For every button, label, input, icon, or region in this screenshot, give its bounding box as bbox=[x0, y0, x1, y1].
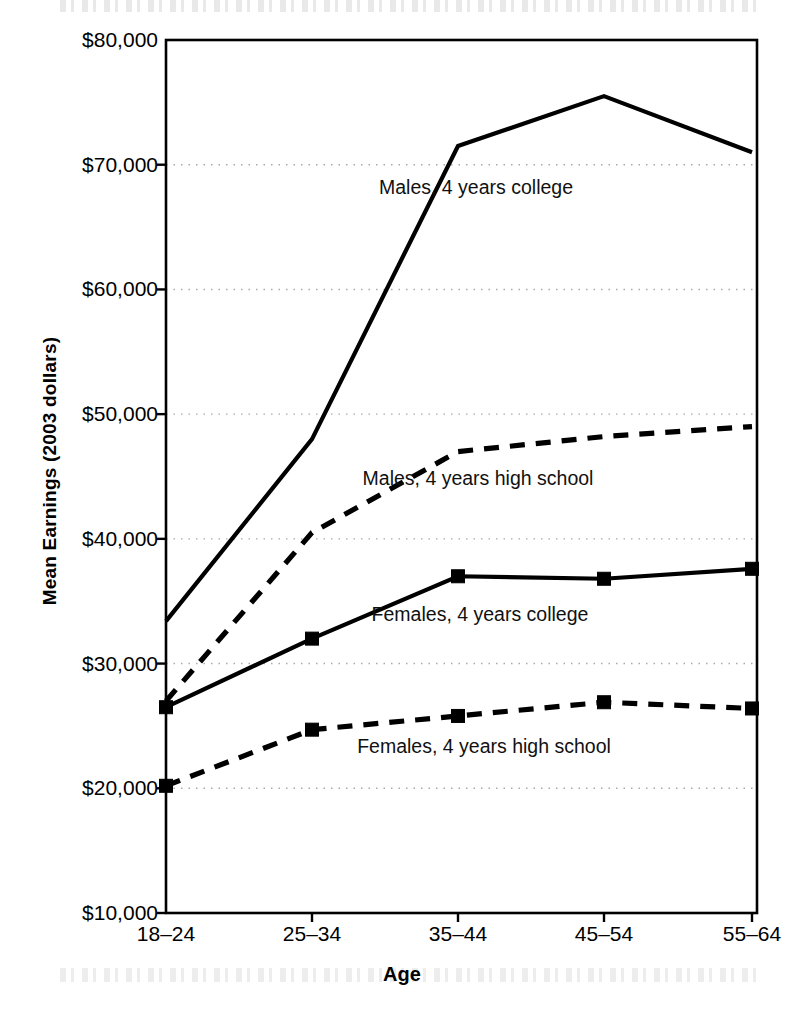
series-line bbox=[166, 569, 752, 707]
x-axis-title: Age bbox=[0, 963, 804, 986]
series-label-0: Males, 4 years college bbox=[379, 178, 573, 198]
plot-area bbox=[0, 0, 804, 1021]
series-marker bbox=[598, 696, 611, 709]
series-marker bbox=[746, 702, 759, 715]
x-tick-label: 25–34 bbox=[242, 923, 382, 944]
series-marker bbox=[598, 572, 611, 585]
series-2 bbox=[160, 562, 759, 713]
x-tick-label: 55–64 bbox=[682, 923, 804, 944]
series-label-3: Females, 4 years high school bbox=[357, 737, 611, 757]
series-marker bbox=[160, 701, 173, 714]
series-marker bbox=[452, 570, 465, 583]
series-line bbox=[166, 96, 752, 621]
series-marker bbox=[306, 632, 319, 645]
series-marker bbox=[306, 723, 319, 736]
series-0 bbox=[166, 96, 752, 621]
x-tick-label: 35–44 bbox=[388, 923, 528, 944]
series-label-1: Males, 4 years high school bbox=[363, 469, 594, 489]
x-tick-marks bbox=[312, 913, 752, 922]
series-marker bbox=[452, 709, 465, 722]
series-marker bbox=[160, 779, 173, 792]
x-tick-label: 18–24 bbox=[96, 923, 236, 944]
earnings-by-age-chart: Mean Earnings (2003 dollars) $80,000$70,… bbox=[0, 0, 804, 1021]
x-tick-label: 45–54 bbox=[534, 923, 674, 944]
y-tick-marks bbox=[157, 165, 166, 913]
series-label-2: Females, 4 years college bbox=[372, 605, 589, 625]
series-marker bbox=[746, 562, 759, 575]
